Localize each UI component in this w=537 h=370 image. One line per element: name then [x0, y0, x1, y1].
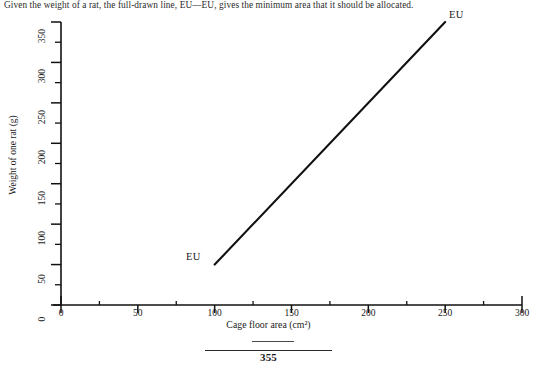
x-axis-title: Cage floor area (cm²) — [0, 319, 537, 330]
y-axis-tick-label: 200 — [37, 142, 47, 172]
y-axis-tick-label: 100 — [37, 223, 47, 253]
y-axis-tick-label: 50 — [37, 264, 47, 294]
page-number: 355 — [0, 351, 537, 363]
x-axis-tick-label: 50 — [118, 308, 158, 318]
y-axis-tick-label: 350 — [37, 21, 47, 51]
figure-chart: 050100150200250300350050100150200250300 … — [0, 0, 537, 340]
y-axis-tick-label: 150 — [37, 183, 47, 213]
x-axis-tick-label: 300 — [502, 308, 537, 318]
series-label-start: EU — [186, 251, 201, 262]
y-axis-tick-label: 250 — [37, 102, 47, 132]
x-axis-tick-label: 250 — [425, 308, 465, 318]
series-line-eu — [215, 22, 445, 265]
data-series-group — [215, 22, 445, 265]
x-axis-tick-label: 200 — [348, 308, 388, 318]
x-axis-tick-label: 0 — [41, 308, 81, 318]
footer-rule-upper — [252, 341, 294, 342]
series-label-end: EU — [449, 9, 464, 20]
page-footer: 355 — [0, 334, 537, 370]
chart-canvas — [0, 0, 537, 340]
x-axis-tick-label: 100 — [195, 308, 235, 318]
y-axis-title: Weight of one rat (g) — [8, 95, 18, 215]
y-axis-tick-label: 300 — [37, 61, 47, 91]
y-axis-ticks — [51, 22, 61, 305]
x-axis-tick-label: 150 — [272, 308, 312, 318]
